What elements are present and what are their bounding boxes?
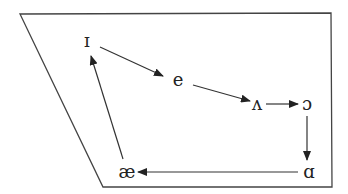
vowel-script_a: ɑ [303,161,315,182]
vowel-wedge: ʌ [251,93,263,114]
vowel-symbol-group: ɪeʌɔɑæ [84,30,315,182]
arrow-i_lax-to-e [100,47,163,76]
vowel-ae: æ [119,161,136,182]
arrow-e-to-wedge [193,85,250,101]
vowel-shift-diagram: ɪeʌɔɑæ [0,0,348,194]
vowel-open_o: ɔ [302,93,312,114]
arrow-ae-to-i_lax [91,56,123,159]
vowel-space-trapezoid [20,13,332,187]
vowel-e: e [173,69,184,90]
arrow-group [91,47,307,172]
vowel-i_lax: ɪ [84,30,90,51]
